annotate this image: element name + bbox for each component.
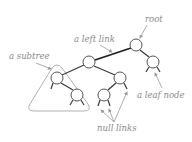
subtree-arrow xyxy=(36,63,51,69)
root-arrow xyxy=(140,25,147,38)
edge-ll-llr xyxy=(61,83,73,90)
edge-l-ll xyxy=(62,65,84,75)
tree-edges xyxy=(61,48,149,90)
tree-node xyxy=(114,72,126,84)
tree-node xyxy=(71,89,83,101)
subtree-label: a subtree xyxy=(9,51,50,61)
null-link-arrow-3 xyxy=(114,92,127,122)
edge-lr-lrl xyxy=(108,83,116,90)
leaf-node-arrow xyxy=(155,73,162,88)
root-label: root xyxy=(145,14,163,24)
edge-l-lr xyxy=(94,66,115,75)
left-link-label: a left link xyxy=(74,34,115,44)
subtree-root-node xyxy=(51,72,63,84)
left-link-edge xyxy=(95,48,131,60)
leaf-node-label: a leaf node xyxy=(137,90,185,100)
tree-node xyxy=(83,56,95,68)
edge-root-rleaf xyxy=(140,50,149,57)
binary-tree-diagram: root a left link a subtree a leaf node n… xyxy=(0,0,192,142)
leaf-node xyxy=(147,56,159,68)
root-node xyxy=(130,39,142,51)
null-links-label: null links xyxy=(97,123,137,133)
left-link-arrow xyxy=(100,45,112,52)
tree-node xyxy=(98,89,110,101)
